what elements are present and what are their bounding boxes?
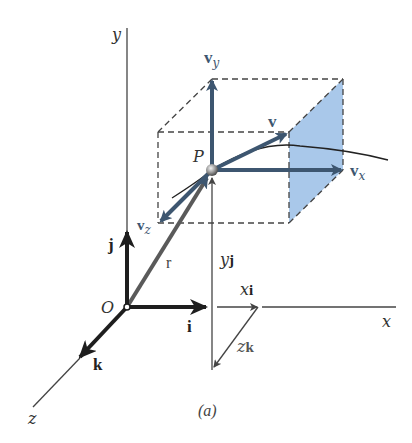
zk-vector [214,307,258,367]
x-axis-label: x [382,312,391,331]
p-label: P [192,147,204,166]
vx-label: vx [350,161,366,183]
y-axis-label: y [111,25,122,44]
z-axis [33,358,80,407]
xi-label: xi [240,280,253,299]
unit-k-label: k [93,355,103,374]
r-label: r [166,254,172,271]
origin-point [124,304,130,310]
z-axis-label: z [27,409,37,428]
vz-label: vz [137,217,152,237]
yj-label: yj [219,250,234,269]
v-label: v [268,112,277,131]
figure-caption: (a) [198,402,217,420]
unit-j-label: j [107,235,114,254]
particle-p [206,164,218,176]
position-vector-r [127,178,207,307]
origin-label: O [101,298,114,317]
unit-i-label: i [187,317,192,336]
shaded-face [289,79,343,223]
vy-label: vy [204,48,220,70]
velocity-v [212,134,286,170]
zk-label: zk [236,337,254,356]
velocity-components-diagram: y x z O j i k r P xi yj zk v vy vx vz (a… [0,0,412,443]
